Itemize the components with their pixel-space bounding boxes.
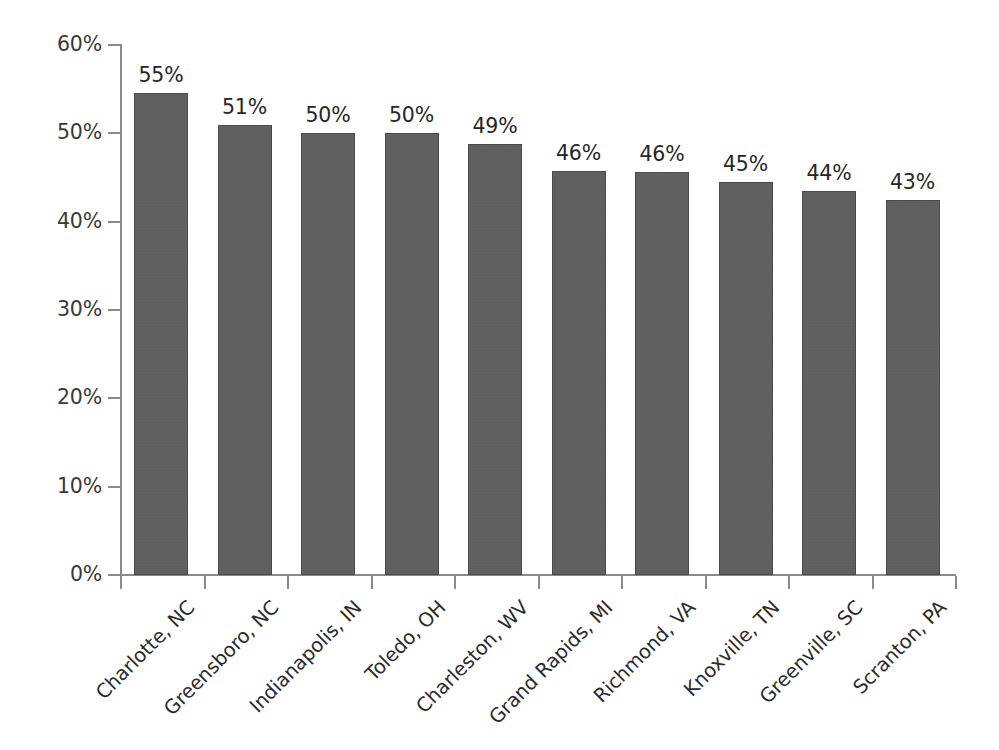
bar-value-label: 45% — [709, 152, 783, 176]
y-axis-tick-label: 30% — [36, 297, 102, 321]
y-axis-tick-label: 20% — [36, 385, 102, 409]
bar-value-label: 55% — [124, 63, 198, 87]
bar-chart: 0%10%20%30%40%50%60% Charlotte, NCGreens… — [0, 0, 999, 750]
bar-value-label: 49% — [458, 114, 532, 138]
y-axis-tick-label: 50% — [36, 120, 102, 144]
bar[interactable] — [301, 133, 355, 575]
bar-value-label: 50% — [291, 103, 365, 127]
bar[interactable] — [468, 144, 522, 575]
bar-value-label: 46% — [625, 142, 699, 166]
y-axis-tick-label: 60% — [36, 32, 102, 56]
bar[interactable] — [218, 125, 272, 576]
bar[interactable] — [385, 133, 439, 575]
bar-value-label: 43% — [876, 170, 950, 194]
y-axis-tick-label: 10% — [36, 474, 102, 498]
x-axis-category-label-text: Toledo, OH — [360, 596, 450, 686]
plot-area — [120, 45, 955, 575]
bar-value-label: 50% — [375, 103, 449, 127]
bar-value-label: 46% — [542, 141, 616, 165]
y-axis-tick-label: 0% — [36, 562, 102, 586]
bar-value-label: 44% — [792, 161, 866, 185]
bar-value-label: 51% — [208, 95, 282, 119]
x-tick — [120, 576, 122, 589]
bar[interactable] — [134, 93, 188, 575]
y-axis-tick-label: 40% — [36, 209, 102, 233]
